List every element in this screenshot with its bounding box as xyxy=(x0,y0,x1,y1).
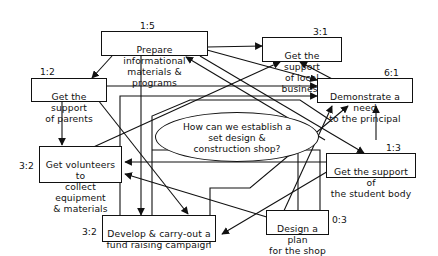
node-principal[interactable]: Demonstrate a need to the principal xyxy=(317,78,413,103)
interrelationship-digraph: How can we establish a set design & cons… xyxy=(0,0,438,256)
node-label: Prepare informational materials & progra… xyxy=(123,44,186,88)
node-parents[interactable]: Get the support of parents xyxy=(31,78,107,102)
node-score-local-business: 3:1 xyxy=(313,26,328,37)
central-question-ellipse: How can we establish a set design & cons… xyxy=(155,112,319,162)
node-student-body[interactable]: Get the support of the student body xyxy=(326,153,416,178)
node-score-prepare: 1:5 xyxy=(140,20,155,31)
node-score-parents: 1:2 xyxy=(40,66,55,77)
node-score-volunteers: 3:2 xyxy=(19,160,34,171)
node-volunteers[interactable]: Get volunteers to collect equipment & ma… xyxy=(39,146,122,183)
node-local-business[interactable]: Get the support of local business xyxy=(262,37,342,62)
node-score-student-body: 1:3 xyxy=(386,142,401,153)
node-prepare-materials[interactable]: Prepare informational materials & progra… xyxy=(101,31,208,56)
node-design-plan[interactable]: Design a plan for the shop xyxy=(266,210,329,235)
node-label: Get the support of parents xyxy=(45,91,93,124)
node-score-plan: 0:3 xyxy=(332,214,347,225)
node-fund-raising[interactable]: Develop & carry-out a fund raising campa… xyxy=(102,215,216,242)
central-question-text: How can we establish a set design & cons… xyxy=(183,121,291,154)
node-score-fund-raising: 3:2 xyxy=(82,226,97,237)
node-score-principal: 6:1 xyxy=(384,67,399,78)
node-label: Develop & carry-out a fund raising campa… xyxy=(107,228,212,250)
